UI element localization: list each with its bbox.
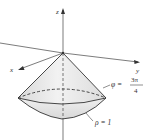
x-axis-label: x [9,66,14,74]
origin-point [62,52,64,54]
x-axis-arrow-icon [18,66,25,70]
x-axis-back [0,43,63,53]
phi-label-numerator: 3π [131,76,139,84]
rho-label: ρ = 1 [94,118,111,127]
phi-leader-line [103,85,110,88]
y-axis [63,53,138,62]
cone-surface [18,53,106,103]
cone-sphere-diagram: z x y φ = 3π 4 ρ = 1 [0,0,151,140]
z-axis-label: z [55,8,59,16]
y-axis-arrow-icon [134,60,140,64]
phi-label: φ = [111,80,122,89]
rho-leader-line [86,113,93,121]
y-axis-label: y [135,67,140,75]
phi-label-denominator: 4 [134,87,138,95]
z-axis-arrow-icon [61,8,65,14]
